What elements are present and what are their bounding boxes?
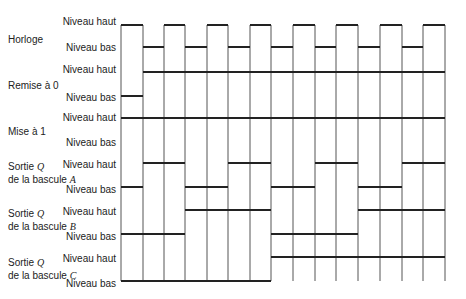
timing-diagram: Horloge Remise à 0 Mise à 1 Sortie Q de … xyxy=(0,0,466,299)
waveform-canvas xyxy=(0,0,466,299)
